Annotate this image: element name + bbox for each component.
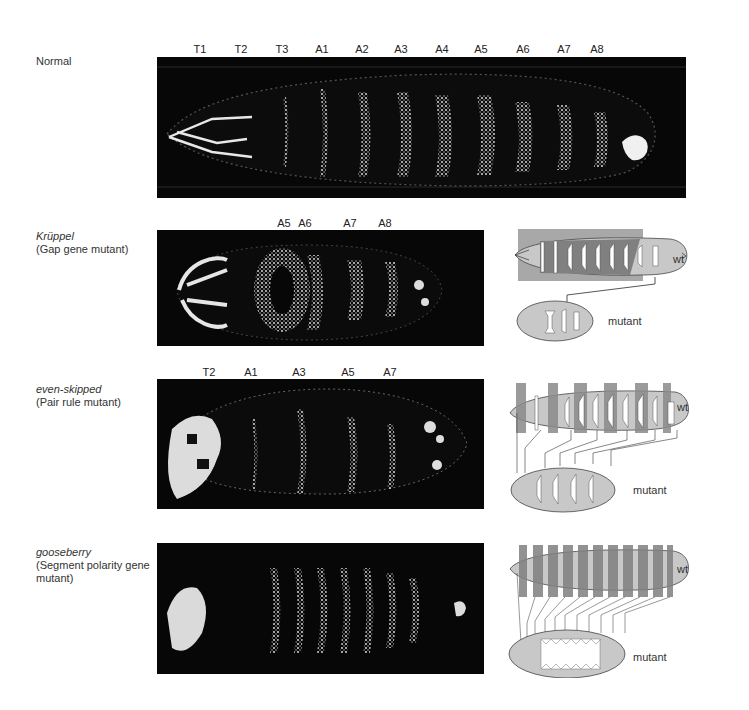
gene-class: (Segment polarity gene mutant) xyxy=(36,559,156,585)
segment-label: A7 xyxy=(557,43,570,55)
segment-label: T1 xyxy=(194,43,207,55)
embryo-photo-gooseberry xyxy=(157,543,484,674)
segment-label: A2 xyxy=(355,43,368,55)
mutant-label: mutant xyxy=(633,651,667,663)
segment-label: A7 xyxy=(383,366,396,378)
embryo-photo-normal xyxy=(157,57,686,198)
segment-label: A5 xyxy=(341,366,354,378)
diagram-gooseberry: wt mutant xyxy=(505,543,695,678)
segment-label: A3 xyxy=(394,43,407,55)
segment-label: T3 xyxy=(276,43,289,55)
diagram-eve: wt mutant xyxy=(505,378,695,513)
gene-class: (Gap gene mutant) xyxy=(36,243,128,255)
segment-label: A1 xyxy=(315,43,328,55)
panel-eve-label: even-skipped (Pair rule mutant) xyxy=(36,383,121,409)
wt-label: wt xyxy=(677,401,688,413)
gene-name: gooseberry xyxy=(36,546,156,559)
segment-label: T2 xyxy=(235,43,248,55)
segment-label: A3 xyxy=(292,366,305,378)
segment-label: A5 xyxy=(277,217,290,229)
segment-label: A8 xyxy=(590,43,603,55)
gene-name: Krüppel xyxy=(36,230,128,243)
embryo-photo-eve xyxy=(157,379,484,509)
gene-class: (Pair rule mutant) xyxy=(36,396,121,408)
segment-label: A1 xyxy=(244,366,257,378)
segment-label: A5 xyxy=(474,43,487,55)
segment-label: A4 xyxy=(435,43,448,55)
segment-label: A7 xyxy=(343,217,356,229)
panel-gooseberry-label: gooseberry (Segment polarity gene mutant… xyxy=(36,546,156,585)
wt-label: wt xyxy=(673,253,684,265)
mutant-label: mutant xyxy=(633,484,667,496)
wt-label: wt xyxy=(677,563,688,575)
diagram-kruppel: wt mutant xyxy=(510,229,690,344)
embryo-photo-kruppel xyxy=(157,230,484,346)
segment-label: A6 xyxy=(298,217,311,229)
segment-label: A8 xyxy=(378,217,391,229)
segment-label: T2 xyxy=(203,366,216,378)
panel-kruppel-label: Krüppel (Gap gene mutant) xyxy=(36,230,128,256)
mutant-label: mutant xyxy=(608,315,642,327)
segment-label: A6 xyxy=(516,43,529,55)
segment-labels-normal: T1 T2 T3 A1 A2 A3 A4 A5 A6 A7 A8 xyxy=(0,43,749,57)
gene-name: even-skipped xyxy=(36,383,121,396)
